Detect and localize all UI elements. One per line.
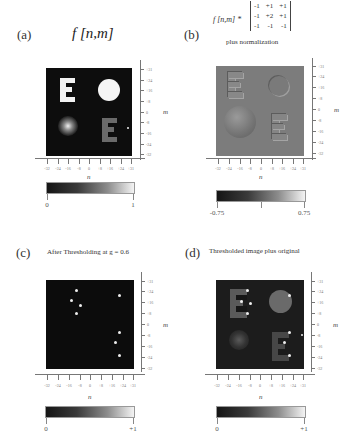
threshold-point — [118, 294, 121, 297]
shaded-sphere — [224, 106, 256, 138]
threshold-point — [288, 354, 291, 357]
x-axis-label: n — [259, 393, 263, 401]
dim-gaussian-blob — [229, 330, 249, 350]
x-axis-label: n — [259, 173, 263, 181]
image-filtered — [216, 66, 304, 156]
colorbar — [216, 190, 306, 202]
threshold-point — [114, 341, 117, 344]
image-combined — [216, 280, 304, 369]
threshold-point — [246, 289, 249, 292]
panel-label: (a) — [17, 27, 31, 43]
panel-title: f [n,m] — [72, 25, 114, 42]
noise-pixel — [127, 127, 129, 129]
y-axis — [140, 60, 141, 160]
threshold-point — [240, 300, 243, 303]
threshold-point — [288, 294, 291, 297]
colorbar-max-label: +1 — [129, 425, 136, 433]
colorbar-max-label: 1 — [131, 201, 135, 209]
threshold-point — [288, 331, 291, 334]
panel-label: (d) — [185, 245, 200, 261]
image-original — [46, 68, 132, 156]
threshold-point — [79, 304, 82, 307]
colorbar-min-label: 0 — [45, 201, 49, 209]
threshold-point — [70, 299, 73, 302]
panel-label: (b) — [184, 27, 199, 43]
panel-subtitle: plus normalization — [226, 38, 278, 46]
gaussian-blob — [58, 116, 78, 136]
y-axis-label: m — [334, 106, 339, 114]
y-axis-label: m — [163, 321, 168, 329]
threshold-point — [249, 302, 252, 305]
colorbar-max-label: 0.75 — [298, 209, 310, 217]
colorbar-min-label: 0 — [215, 425, 219, 433]
colorbar — [46, 182, 135, 194]
kernel-matrix: -1+1+1 -1+2+1 -1-1-1 — [250, 1, 291, 31]
colorbar-min-label: 0 — [44, 425, 48, 433]
convolution-expression: f [n,m] * — [213, 15, 241, 24]
colorbar-min-label: -0.75 — [210, 209, 225, 217]
threshold-point — [118, 331, 121, 334]
threshold-point — [75, 312, 78, 315]
threshold-point — [283, 341, 286, 344]
panel-label: (c) — [16, 245, 30, 261]
y-axis-label: m — [333, 321, 338, 329]
threshold-point — [301, 334, 303, 336]
threshold-point — [118, 354, 121, 357]
image-thresholded — [46, 280, 134, 369]
panel-title: After Thresholding at g = 0.6 — [47, 248, 129, 256]
colorbar — [216, 406, 306, 418]
colorbar-max-label: +1 — [300, 425, 307, 433]
x-axis — [35, 158, 145, 159]
bright-circle — [98, 79, 120, 101]
panel-title: Thresholded image plus original — [209, 247, 300, 255]
embossed-circle — [269, 76, 289, 96]
threshold-point — [246, 312, 249, 315]
threshold-point — [75, 289, 78, 292]
colorbar — [45, 406, 135, 418]
x-axis-label: n — [87, 173, 91, 181]
y-axis-label: m — [163, 108, 168, 116]
x-axis-label: n — [88, 393, 92, 401]
